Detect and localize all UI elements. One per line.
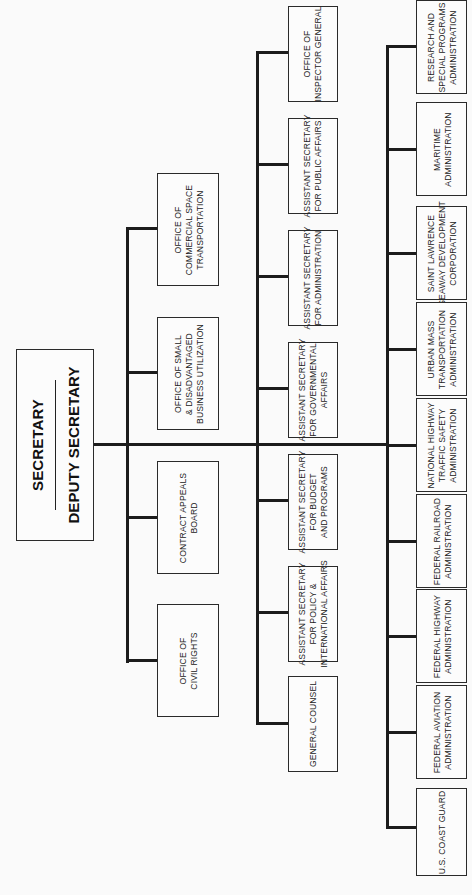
box-text: CONTRACT APPEALS — [177, 472, 188, 562]
sec-stub-7 — [256, 722, 288, 725]
general-counsel[interactable]: GENERAL COUNSEL — [288, 676, 338, 772]
admin-stub-4 — [386, 348, 416, 351]
box-text: OFFICE OF — [172, 206, 183, 253]
sec-stub-4 — [256, 387, 288, 390]
sec-stub-3 — [256, 275, 288, 278]
box-text: COMMERCIAL SPACE — [183, 184, 194, 274]
box-text: BOARD — [188, 502, 199, 533]
box-text: MARITIME — [431, 128, 442, 171]
urban-mass-transportation-admin[interactable]: URBAN MASS TRANSPORTATION ADMINISTRATION — [416, 302, 467, 396]
box-text: ADMINISTRATION — [442, 504, 453, 578]
box-text: FOR POLICY & — [308, 583, 319, 644]
sec-stub-6 — [256, 611, 288, 614]
staff-stub-1 — [126, 227, 157, 230]
sec-stub-5 — [256, 499, 288, 502]
box-text: URBAN MASS — [425, 320, 436, 378]
box-text: CIVIL RIGHTS — [188, 632, 199, 689]
box-text: SPECIAL PROGRAMS — [436, 2, 447, 92]
box-text: INTERNATIONAL AFFAIRS — [319, 560, 330, 668]
office-civil-rights[interactable]: OFFICE OF CIVIL RIGHTS — [157, 604, 219, 717]
box-text: OFFICE OF — [177, 637, 188, 684]
box-text: GENERAL COUNSEL — [308, 681, 319, 767]
box-text: ADMINISTRATION — [447, 312, 458, 386]
staff-stub-4 — [126, 659, 157, 662]
admin-stub-3 — [386, 252, 416, 255]
box-text: FOR ADMINISTRATION — [313, 231, 324, 326]
staff-stub-3 — [126, 516, 157, 519]
box-text: FOR BUDGET — [308, 473, 319, 530]
admin-stub-5 — [386, 444, 416, 447]
asst-sec-budget-programs[interactable]: ASSISTANT SECRETARY FOR BUDGET AND PROGR… — [288, 454, 338, 550]
box-text: ADMINISTRATION — [447, 10, 458, 84]
box-text: OFFICE OF — [302, 31, 313, 78]
asst-sec-public-affairs[interactable]: ASSISTANT SECRETARY FOR PUBLIC AFFAIRS — [288, 118, 338, 214]
contract-appeals-board[interactable]: CONTRACT APPEALS BOARD — [157, 461, 219, 574]
deputy-secretary-title: DEPUTY SECRETARY — [65, 366, 82, 523]
box-text: BUSINESS UTILIZATION — [194, 324, 205, 424]
staff-stub-2 — [126, 371, 157, 374]
us-coast-guard[interactable]: U.S. COAST GUARD — [416, 788, 467, 876]
box-text: TRANSPORTATION — [436, 309, 447, 388]
research-special-programs-admin[interactable]: RESEARCH AND SPECIAL PROGRAMS ADMINISTRA… — [416, 0, 467, 94]
box-text: SEAWAY DEVELOPMENT — [436, 201, 447, 305]
federal-aviation-administration[interactable]: FEDERAL AVIATION ADMINISTRATION — [416, 685, 467, 779]
admin-spine — [386, 45, 389, 828]
maritime-administration[interactable]: MARITIME ADMINISTRATION — [416, 102, 467, 196]
box-text: ADMINISTRATION — [442, 599, 453, 673]
saint-lawrence-seaway[interactable]: SAINT LAWRENCE SEAWAY DEVELOPMENT CORPOR… — [416, 206, 467, 300]
box-text: U.S. COAST GUARD — [436, 790, 447, 874]
admin-stub-2 — [386, 148, 416, 151]
box-text: NATIONAL HIGHWAY — [425, 402, 436, 488]
asst-sec-governmental-affairs[interactable]: ASSISTANT SECRETARY FOR GOVERNMENTAL AFF… — [288, 342, 338, 438]
nhtsa[interactable]: NATIONAL HIGHWAY TRAFFIC SAFETY ADMINIST… — [416, 398, 467, 492]
box-text: ASSISTANT SECRETARY — [297, 339, 308, 442]
box-text: CORPORATION — [447, 221, 458, 285]
staff-spine — [126, 227, 129, 663]
admin-stub-8 — [386, 731, 416, 734]
box-text: ASSISTANT SECRETARY — [297, 451, 308, 554]
admin-stub-6 — [386, 540, 416, 543]
box-text: FOR PUBLIC AFFAIRS — [313, 120, 324, 211]
box-text: FOR GOVERNMENTAL — [308, 343, 319, 437]
sec-stub-1 — [256, 51, 288, 54]
admin-stub-9 — [386, 826, 416, 829]
asst-sec-administration[interactable]: ASSISTANT SECRETARY FOR ADMINISTRATION — [288, 230, 338, 326]
box-text: FEDERAL RAILROAD — [431, 497, 442, 584]
box-text: ADMINISTRATION — [442, 695, 453, 769]
admin-stub-1 — [386, 45, 416, 48]
box-text: TRANSPORTATION — [194, 190, 205, 269]
box-text: OFFICE OF SMALL — [172, 335, 183, 413]
box-text: SAINT LAWRENCE — [425, 214, 436, 291]
office-commercial-space-transportation[interactable]: OFFICE OF COMMERCIAL SPACE TRANSPORTATIO… — [157, 173, 219, 286]
secretary-title: SECRETARY — [29, 399, 46, 491]
sec-stub-2 — [256, 163, 288, 166]
box-text: ASSISTANT SECRETARY — [302, 227, 313, 330]
box-text: ADMINISTRATION — [442, 112, 453, 186]
box-text: AND PROGRAMS — [319, 466, 330, 538]
office-small-disadvantaged-business[interactable]: OFFICE OF SMALL & DISADVANTAGED BUSINESS… — [157, 317, 219, 430]
box-text: FEDERAL AVIATION — [431, 691, 442, 773]
secretary-box[interactable]: SECRETARY DEPUTY SECRETARY — [16, 349, 94, 541]
federal-railroad-administration[interactable]: FEDERAL RAILROAD ADMINISTRATION — [416, 494, 467, 588]
box-text: ADMINISTRATION — [447, 408, 458, 482]
box-text: ASSISTANT SECRETARY — [297, 563, 308, 666]
box-text: & DISADVANTAGED — [183, 333, 194, 415]
title-divider — [55, 380, 56, 510]
box-text: RESEARCH AND — [425, 13, 436, 82]
box-text: FEDERAL HIGHWAY — [431, 594, 442, 677]
box-text: AFFAIRS — [319, 372, 330, 409]
root-connector — [94, 443, 389, 446]
federal-highway-administration[interactable]: FEDERAL HIGHWAY ADMINISTRATION — [416, 589, 467, 683]
asst-sec-policy-international[interactable]: ASSISTANT SECRETARY FOR POLICY & INTERNA… — [288, 566, 338, 662]
office-inspector-general[interactable]: OFFICE OF INSPECTOR GENERAL — [288, 6, 338, 102]
box-text: ASSISTANT SECRETARY — [302, 115, 313, 218]
box-text: INSPECTOR GENERAL — [313, 6, 324, 101]
box-text: TRAFFIC SAFETY — [436, 408, 447, 482]
admin-stub-7 — [386, 635, 416, 638]
